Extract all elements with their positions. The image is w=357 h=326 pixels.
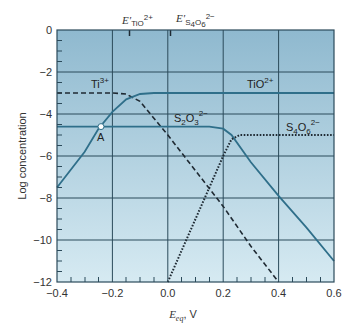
x-tick-labels: −0.4 −0.2 0.0 0.2 0.4 0.6 (46, 287, 342, 299)
point-a-marker (98, 124, 104, 130)
x-tick-0.6: 0.6 (326, 287, 341, 299)
chart: 0 −2 −4 −6 −8 −10 −12 −0.4 −0.2 0.0 0.2 … (0, 0, 357, 326)
y-tick-neg8: −8 (39, 192, 52, 204)
y-tick-neg4: −4 (39, 108, 52, 120)
y-tick-labels: 0 −2 −4 −6 −8 −10 −12 (33, 24, 52, 288)
x-tick-0.0: 0.0 (160, 287, 175, 299)
x-tick-neg0.2: −0.2 (102, 287, 124, 299)
y-tick-neg6: −6 (39, 150, 52, 162)
es4o6-label: E′S4O62− (175, 12, 215, 29)
x-tick-0.2: 0.2 (216, 287, 231, 299)
y-tick-neg10: −10 (33, 234, 52, 246)
x-axis-title: Eeq, V (168, 308, 197, 323)
y-tick-0: 0 (46, 24, 52, 36)
x-tick-neg0.4: −0.4 (46, 287, 68, 299)
y-axis-title: Log concentration (16, 112, 28, 199)
etio-label: E′TiO2+ (121, 13, 153, 28)
y-tick-neg2: −2 (39, 66, 52, 78)
x-tick-0.4: 0.4 (271, 287, 286, 299)
label-point-a: A (97, 131, 105, 143)
